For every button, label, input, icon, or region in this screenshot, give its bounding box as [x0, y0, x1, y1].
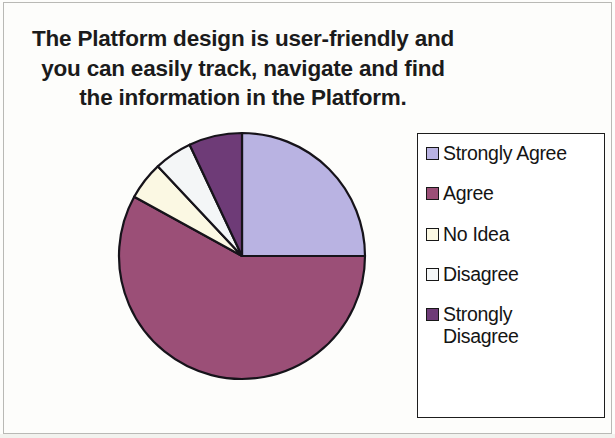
pie-slice-group — [119, 133, 365, 379]
pie-plot-area — [112, 126, 372, 386]
legend-swatch-strongly-disagree — [426, 308, 439, 321]
legend-swatch-strongly-agree — [426, 147, 439, 160]
legend-label-strongly-disagree: Strongly Disagree — [443, 304, 519, 348]
scan-edge-artifact — [0, 434, 615, 438]
chart-legend: Strongly Agree Agree No Idea Disagree St… — [417, 133, 605, 418]
legend-swatch-no-idea — [426, 228, 439, 241]
legend-item-agree[interactable]: Agree — [426, 183, 598, 205]
legend-label-agree: Agree — [443, 183, 494, 205]
pie-slice-strongly-agree[interactable] — [242, 133, 365, 256]
legend-item-strongly-agree[interactable]: Strongly Agree — [426, 143, 598, 165]
legend-item-disagree[interactable]: Disagree — [426, 264, 598, 286]
legend-label-no-idea: No Idea — [443, 224, 509, 246]
pie-chart-figure: The Platform design is user-friendly and… — [0, 0, 615, 438]
legend-item-no-idea[interactable]: No Idea — [426, 224, 598, 246]
legend-swatch-disagree — [426, 268, 439, 281]
legend-label-strongly-agree: Strongly Agree — [443, 143, 567, 165]
legend-item-strongly-disagree[interactable]: Strongly Disagree — [426, 304, 598, 348]
chart-title: The Platform design is user-friendly and… — [28, 24, 458, 113]
legend-label-disagree: Disagree — [443, 264, 519, 286]
pie-svg — [112, 126, 372, 386]
legend-swatch-agree — [426, 187, 439, 200]
